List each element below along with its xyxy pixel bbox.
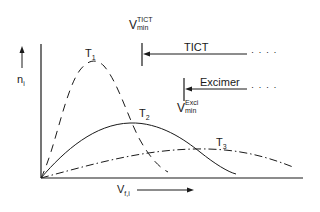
tict-trailing-dots: · · · · xyxy=(251,48,278,57)
t1-main: T xyxy=(85,47,92,59)
curve-label-t1: T1 xyxy=(85,48,96,59)
tict-arrowhead-icon xyxy=(143,52,150,57)
v-exci-sup: Exci xyxy=(185,99,198,107)
t3-main: T xyxy=(216,136,223,148)
v-exci-supsub: Excimin xyxy=(185,99,198,115)
curve-t2 xyxy=(41,123,236,178)
v-tict-sub: min xyxy=(137,24,153,32)
v-min-exci-label: VExcimin xyxy=(177,101,198,117)
v-tict-sup: TICT xyxy=(137,16,153,24)
curve-label-t2: T2 xyxy=(139,108,150,119)
x-label-sub: f,i xyxy=(124,190,129,197)
excimer-trailing-dots: · · · · xyxy=(251,83,278,92)
distribution-diagram xyxy=(0,0,320,212)
t3-sub: 3 xyxy=(223,143,227,150)
curve-label-t3: T3 xyxy=(216,137,227,148)
tict-label: TICT xyxy=(184,42,208,53)
v-exci-main: V xyxy=(177,101,185,115)
x-axis-label: Vf,i xyxy=(117,184,130,195)
v-tict-supsub: TICTmin xyxy=(137,16,153,32)
v-exci-sub: min xyxy=(185,107,198,115)
curve-t3 xyxy=(41,149,293,178)
y-arrowhead-icon xyxy=(20,46,25,53)
x-arrowhead-icon xyxy=(187,188,194,193)
t2-sub: 2 xyxy=(146,114,150,121)
excimer-label: Excimer xyxy=(200,77,240,88)
v-min-tict-label: VTICTmin xyxy=(129,18,153,34)
excimer-arrowhead-icon xyxy=(185,87,192,92)
v-tict-main: V xyxy=(129,18,137,32)
t1-sub: 1 xyxy=(92,54,96,61)
y-label-sub: i xyxy=(23,80,25,87)
t2-main: T xyxy=(139,107,146,119)
y-axis-label: ni xyxy=(17,74,25,85)
